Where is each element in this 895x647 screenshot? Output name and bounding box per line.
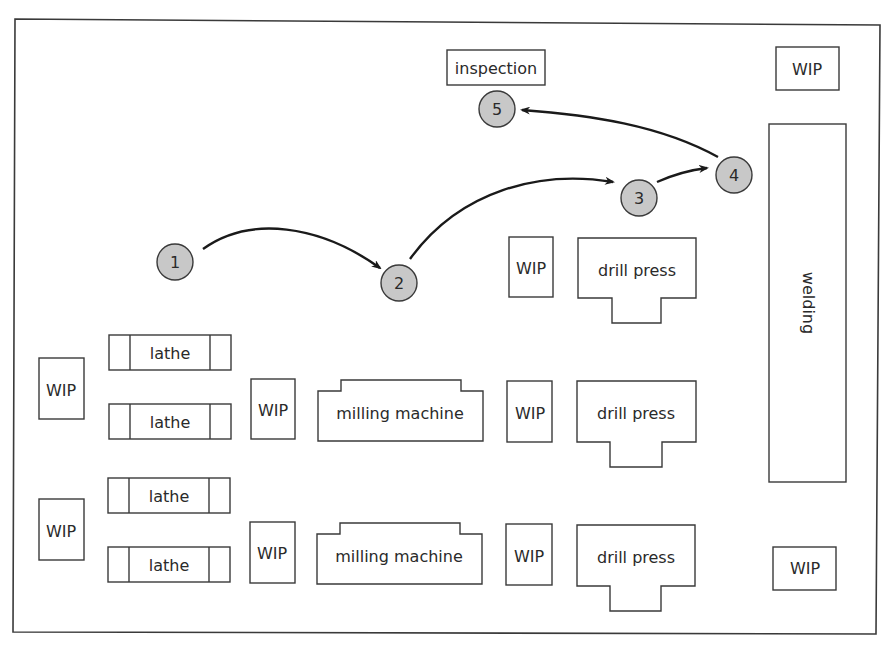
wip-label: WIP [46, 381, 77, 400]
step-node-3: 3 [621, 180, 657, 216]
lathe-1: lathe [109, 335, 231, 370]
lathe-label: lathe [149, 487, 190, 506]
step-node-5: 5 [479, 91, 515, 127]
milling-machine-label: milling machine [336, 404, 464, 423]
drill-press-label: drill press [597, 548, 675, 567]
lathe-label: lathe [149, 556, 190, 575]
wip-label: WIP [790, 559, 821, 578]
wip-drill-bottom: WIP [506, 524, 552, 585]
step-number: 3 [634, 189, 644, 208]
wip-label: WIP [46, 522, 77, 541]
wip-label: WIP [515, 404, 546, 423]
step-node-1: 1 [157, 244, 193, 280]
wip-drill-mid: WIP [507, 381, 552, 442]
lathe-label: lathe [150, 413, 191, 432]
step-node-4: 4 [716, 157, 752, 193]
drill-press-mid: drill press [577, 381, 696, 467]
wip-top-right: WIP [776, 47, 839, 90]
flow-arrow-1-2 [203, 229, 380, 268]
wip-bottom-right: WIP [773, 547, 836, 590]
flow-arrow-4-5 [522, 110, 718, 157]
wip-label: WIP [516, 259, 547, 278]
welding-station: welding [769, 124, 846, 482]
drill-press-label: drill press [598, 261, 676, 280]
inspection-station: inspection [447, 50, 545, 85]
flow-arrow-3-4 [657, 168, 707, 182]
milling-machine-lower: milling machine [317, 523, 482, 584]
milling-machine-upper: milling machine [318, 380, 483, 441]
lathe-3: lathe [108, 478, 230, 513]
wip-label: WIP [257, 544, 288, 563]
drill-press-label: drill press [597, 404, 675, 423]
wip-drill-top: WIP [509, 237, 553, 297]
shop-floor-diagram: inspection WIP welding WIP WIP drill pre… [0, 0, 895, 647]
step-number: 5 [492, 100, 502, 119]
wip-label: WIP [792, 60, 823, 79]
step-number: 1 [170, 253, 180, 272]
wip-mill-lower: WIP [250, 522, 295, 583]
wip-left-upper: WIP [39, 358, 84, 419]
wip-label: WIP [514, 547, 545, 566]
lathe-4: lathe [108, 547, 230, 582]
inspection-label: inspection [455, 59, 537, 78]
step-number: 4 [729, 166, 739, 185]
step-number: 2 [394, 274, 404, 293]
welding-label: welding [799, 272, 818, 334]
wip-left-lower: WIP [39, 499, 84, 560]
wip-label: WIP [258, 401, 289, 420]
lathe-2: lathe [109, 404, 231, 439]
wip-mill-upper: WIP [251, 379, 295, 439]
drill-press-bottom: drill press [577, 525, 695, 611]
lathe-label: lathe [150, 344, 191, 363]
milling-machine-label: milling machine [335, 547, 463, 566]
drill-press-top: drill press [578, 238, 696, 323]
step-node-2: 2 [381, 265, 417, 301]
